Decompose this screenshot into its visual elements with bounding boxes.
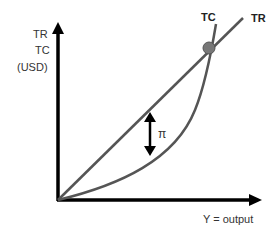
y-axis-label-unit: (USD) <box>17 61 48 73</box>
tc-curve <box>58 24 216 200</box>
y-axis-label-tr: TR <box>33 28 48 40</box>
tr-line-label: TR <box>251 12 266 24</box>
x-axis-arrow-icon <box>249 194 262 206</box>
x-axis-label: Y = output <box>203 213 253 225</box>
profit-arrow-down-icon <box>144 146 156 156</box>
y-axis-arrow-icon <box>52 22 64 34</box>
tc-curve-label: TC <box>201 11 216 23</box>
break-even-marker <box>203 42 215 54</box>
profit-label: π <box>158 127 166 141</box>
y-axis-label-tc: TC <box>35 44 50 56</box>
tr-line <box>58 18 243 200</box>
